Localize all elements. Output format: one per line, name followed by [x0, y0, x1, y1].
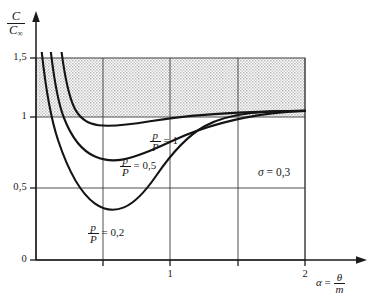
y-axis — [30, 11, 40, 260]
x-tick-label-1: 1 — [158, 268, 182, 279]
annotation-05-denominator: P — [120, 166, 131, 178]
y-axis-numerator: C — [10, 10, 22, 23]
sigma-value: 0,3 — [276, 166, 290, 178]
annotation-02-value: 0,2 — [110, 226, 124, 238]
x-axis — [36, 256, 367, 266]
annotation-05-numerator: p — [121, 155, 131, 166]
chart-plot — [0, 0, 380, 302]
y-axis-denominator-subscript: ∞ — [17, 29, 23, 38]
annotation-05-value: 0,5 — [142, 159, 156, 171]
annotation-1-denominator: P — [150, 141, 161, 153]
shaded-band — [36, 58, 305, 117]
annotation-05-equals: = — [133, 159, 139, 171]
annotation-curve-p-over-P-05: p P = 0,5 — [120, 155, 156, 178]
annotation-1-numerator: p — [151, 130, 161, 141]
sigma-equals: = — [267, 166, 274, 178]
sigma-symbol: σ — [258, 166, 264, 178]
annotation-02-numerator: p — [89, 222, 99, 233]
x-axis-caption: α = θ m — [316, 272, 345, 295]
x-axis-equals: = — [325, 276, 331, 288]
y-tick-label-1-5: 1,5 — [0, 51, 27, 62]
annotation-curve-p-over-P-1: p P = 1 — [150, 130, 178, 153]
x-tick-label-2: 2 — [293, 268, 317, 279]
y-tick-label-0: 0 — [0, 253, 27, 264]
y-axis-caption: C C∞ — [7, 10, 25, 38]
x-axis-denominator: m — [334, 283, 346, 295]
y-tick-label-1: 1 — [0, 110, 27, 121]
annotation-1-value: 1 — [172, 134, 178, 146]
annotation-curve-p-over-P-02: p P = 0,2 — [88, 222, 124, 245]
annotation-02-equals: = — [101, 226, 107, 238]
annotation-02-denominator: P — [88, 233, 99, 245]
x-axis-numerator: θ — [335, 272, 344, 283]
figure-container: C C∞ α = θ m 1,5 1 0,5 0 1 2 p P = 1 p P… — [0, 0, 380, 302]
annotation-1-equals: = — [163, 134, 169, 146]
annotation-sigma: σ = 0,3 — [258, 166, 290, 178]
y-tick-label-0-5: 0,5 — [0, 181, 27, 192]
